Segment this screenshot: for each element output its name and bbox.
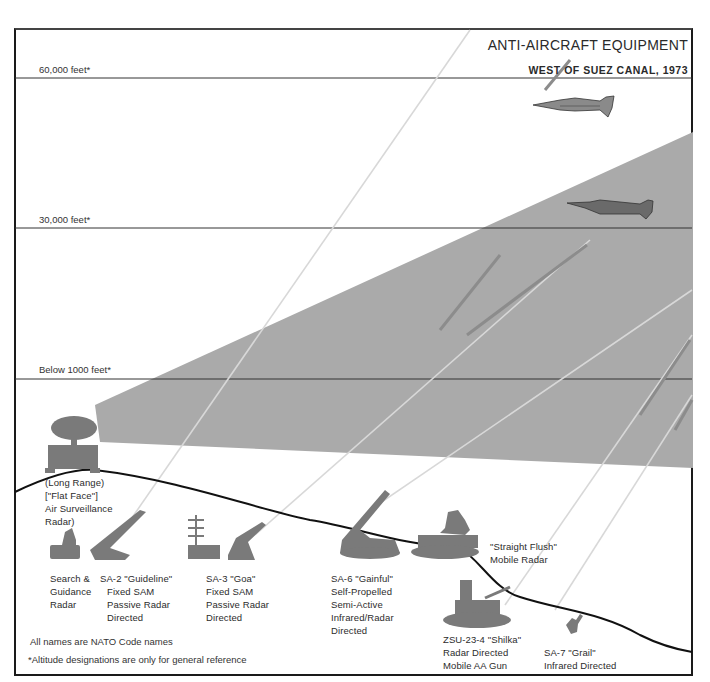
diagram-title: ANTI-AIRCRAFT EQUIPMENT	[488, 37, 688, 53]
sa6-launcher-icon	[340, 490, 400, 559]
sa6-label: SA-6 "Gainful" Self-Propelled Semi-Activ…	[331, 572, 394, 637]
diagram-subtitle: WEST OF SUEZ CANAL, 1973	[528, 64, 688, 76]
sa3-label: SA-3 "Goa" Fixed SAM Passive Radar Direc…	[206, 572, 269, 624]
flat-face-label: (Long Range) ["Flat Face"] Air Surveilla…	[45, 476, 113, 528]
straight-flush-label: "Straight Flush" Mobile Radar	[490, 540, 557, 566]
sa2-label: SA-2 "Guideline" Fixed SAM Passive Radar…	[100, 572, 172, 624]
straight-flush-radar-icon	[411, 510, 479, 559]
radar-coverage-area	[95, 132, 693, 468]
altitude-label-60000: 60,000 feet*	[39, 64, 90, 75]
altitude-label-30000: 30,000 feet*	[39, 214, 90, 225]
altitude-label-1000: Below 1000 feet*	[39, 364, 111, 375]
flat-face-radar-icon	[45, 416, 100, 473]
aircraft-high	[533, 96, 614, 117]
sa3-launcher-icon	[228, 522, 266, 560]
nato-note: All names are NATO Code names	[30, 636, 173, 647]
altitude-note: *Altitude designations are only for gene…	[28, 654, 247, 665]
sa7-soldier-icon	[566, 614, 583, 634]
zsu-23-4-label: ZSU-23-4 "Shilka" Radar Directed Mobile …	[443, 633, 521, 672]
sa7-label: SA-7 "Grail" Infrared Directed	[544, 646, 616, 672]
sa3-radar-icon	[188, 515, 220, 559]
search-radar-label: Search & Guidance Radar	[50, 572, 91, 611]
search-radar-icon	[50, 528, 80, 559]
